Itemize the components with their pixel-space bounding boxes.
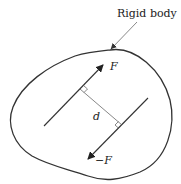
rigid-body-label: Rigid body — [117, 7, 178, 20]
force-minus-F-label: −F — [95, 154, 112, 167]
force-F-label: F — [109, 60, 118, 73]
perpendicular-distance-line — [80, 89, 122, 125]
right-angle-mark-top — [84, 86, 88, 93]
rigid-body-pointer-arrow — [111, 22, 137, 49]
distance-d-label: d — [93, 110, 100, 123]
couple-diagram: Rigid body F −F d — [0, 0, 181, 184]
rigid-body-outline — [10, 50, 171, 180]
force-minus-F-arrow — [88, 98, 148, 159]
